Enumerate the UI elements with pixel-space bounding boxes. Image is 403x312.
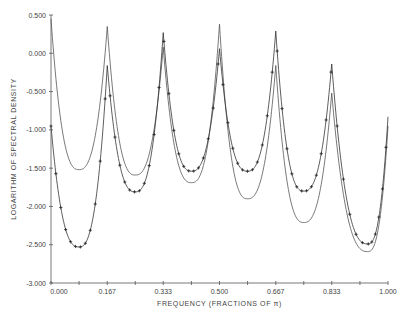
y-axis-title: LOGARITHM OF SPECTRAL DENSITY <box>10 78 17 220</box>
x-tick-label: 0.167 <box>99 288 117 295</box>
plus-marker <box>276 49 279 52</box>
plus-marker <box>280 107 283 110</box>
plot-curves <box>49 19 388 252</box>
plus-marker <box>187 169 190 172</box>
plus-marker <box>325 118 328 121</box>
plus-marker <box>261 143 264 146</box>
plus-marker <box>231 147 234 150</box>
plus-marker <box>113 136 116 139</box>
plus-marker <box>367 242 370 245</box>
spectral-density-chart: 0.5000.000-0.500-1.000-1.500-2.000-2.500… <box>0 0 403 312</box>
plus-marker <box>290 172 293 175</box>
plus-marker <box>384 146 387 149</box>
plus-marker <box>108 94 111 97</box>
plus-marker <box>143 182 146 185</box>
y-ticks: 0.5000.000-0.500-1.000-1.500-2.000-2.500… <box>26 12 53 287</box>
x-tick-label: 0.333 <box>154 288 172 295</box>
plus-marker <box>192 169 195 172</box>
y-tick-label: -0.500 <box>26 88 46 95</box>
x-axis-title: FREQUENCY (FRACTIONS OF π) <box>157 300 282 308</box>
plus-marker <box>94 202 97 205</box>
plus-marker <box>374 232 377 235</box>
x-tick-label: 0.500 <box>211 288 229 295</box>
plus-marker <box>89 229 92 232</box>
plus-marker <box>207 137 210 140</box>
plus-marker <box>118 164 121 167</box>
x-tick-label: 0.000 <box>50 288 68 295</box>
y-tick-label: -1.500 <box>26 165 46 172</box>
y-tick-label: -2.000 <box>26 203 46 210</box>
plus-marker <box>202 156 205 159</box>
plus-marker <box>123 180 126 183</box>
plus-marker <box>148 164 151 167</box>
axes: 0.5000.000-0.500-1.000-1.500-2.000-2.500… <box>26 12 397 296</box>
plus-marker <box>177 152 180 155</box>
plus-marker <box>236 162 239 165</box>
plus-marker <box>285 147 288 150</box>
plus-marker <box>305 189 308 192</box>
plus-marker <box>74 245 77 248</box>
x-tick-label: 0.833 <box>323 288 341 295</box>
x-tick-label: 1.000 <box>379 288 397 295</box>
plus-marker <box>336 124 339 127</box>
plus-marker <box>133 190 136 193</box>
plus-marker <box>315 174 318 177</box>
plus-marker <box>54 172 57 175</box>
y-tick-label: -3.000 <box>26 280 46 287</box>
plus-marker <box>300 189 303 192</box>
x-tick-label: 0.667 <box>267 288 285 295</box>
plus-marker <box>172 129 175 132</box>
plus-marker <box>271 71 274 74</box>
plus-marker <box>99 160 102 163</box>
plus-marker <box>59 206 62 209</box>
y-tick-label: -2.500 <box>26 241 46 248</box>
y-tick-label: 0.500 <box>28 12 46 19</box>
plus-marker <box>104 97 107 100</box>
plus-marker <box>79 245 82 248</box>
plus-marker <box>64 228 67 231</box>
plus-marker <box>348 213 351 216</box>
plus-marker <box>354 233 357 236</box>
y-tick-label: -1.000 <box>26 126 46 133</box>
plus-marker <box>256 160 259 163</box>
curve-spectrum-plain <box>51 19 388 252</box>
plus-marker <box>246 170 249 173</box>
plus-marker <box>266 114 269 117</box>
curve-spectrum-marked <box>51 31 388 247</box>
plus-marker <box>320 152 323 155</box>
plus-marker <box>342 178 345 181</box>
y-tick-label: 0.000 <box>28 50 46 57</box>
plus-marker <box>157 86 160 89</box>
